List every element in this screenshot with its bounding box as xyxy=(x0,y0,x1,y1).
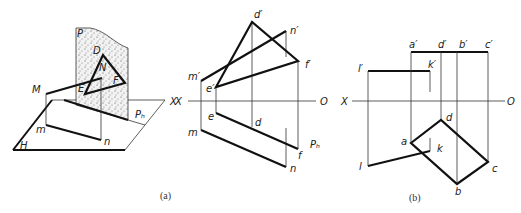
label-n: N xyxy=(99,62,107,73)
descriptive-geometry-figure: P D N E F M m n H Pₕ X d′ n′ f′ m′ e′ e xyxy=(0,0,521,213)
label-d-prime-b: d′ xyxy=(438,39,447,50)
label-ph: Pₕ xyxy=(135,109,145,120)
label-e-prime: e′ xyxy=(206,83,215,94)
label-m-lower-a: m xyxy=(188,127,198,138)
label-d-lower: d xyxy=(255,117,262,128)
label-d-prime: d′ xyxy=(254,9,263,20)
label-f: F xyxy=(113,75,119,86)
label-h: H xyxy=(20,140,28,151)
label-a-prime: a′ xyxy=(409,39,418,50)
label-n-prime: n′ xyxy=(290,25,299,36)
label-f-lower: f xyxy=(298,150,303,161)
label-x-a: X xyxy=(174,96,183,107)
label-k: k xyxy=(437,143,444,154)
label-k-prime: k′ xyxy=(428,59,437,70)
label-p: P xyxy=(77,28,84,39)
label-l: l xyxy=(359,161,362,172)
figure-a-projection: d′ n′ f′ m′ e′ e d m f n Pₕ X O xyxy=(174,9,328,174)
caption-a: (a) xyxy=(160,190,171,202)
label-m-lower: m xyxy=(36,124,46,135)
label-l-prime: l′ xyxy=(358,63,364,74)
label-o-b: O xyxy=(507,96,515,107)
label-e-lower: e xyxy=(208,111,214,122)
figure-a-3d: P D N E F M m n H Pₕ X xyxy=(13,28,178,151)
label-a: a xyxy=(401,136,407,147)
label-m-prime: m′ xyxy=(188,71,201,82)
label-c: c xyxy=(492,163,498,174)
label-m: M xyxy=(32,84,41,95)
label-ph-proj: Pₕ xyxy=(310,139,320,150)
label-x-b: X xyxy=(340,96,349,107)
label-o-a: O xyxy=(320,96,328,107)
label-d: D xyxy=(93,45,101,56)
label-b-prime: b′ xyxy=(459,39,468,50)
label-b: b xyxy=(455,186,461,197)
label-e: E xyxy=(78,83,85,94)
label-d-b: d xyxy=(446,112,453,123)
caption-b: (b) xyxy=(409,192,421,204)
label-f-prime: f′ xyxy=(305,59,312,70)
label-c-prime: c′ xyxy=(485,39,493,50)
label-n-lower: n xyxy=(104,136,110,147)
figure-b: a′ d′ b′ c′ l′ k′ a d k l c b X O xyxy=(340,39,515,197)
label-n-lower-a: n xyxy=(290,163,296,174)
